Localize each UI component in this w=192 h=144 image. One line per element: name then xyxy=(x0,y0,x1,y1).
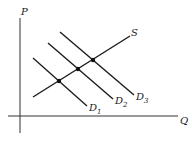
x-axis-label: Q xyxy=(180,115,188,126)
y-axis-label: P xyxy=(20,6,28,17)
equilibrium-point-3 xyxy=(91,58,95,62)
supply-demand-diagram: P Q S D1 D2 D3 xyxy=(0,0,192,144)
equilibrium-point-1 xyxy=(57,79,61,83)
demand-label-3: D3 xyxy=(135,91,149,105)
demand-curve-2 xyxy=(48,43,113,99)
supply-label: S xyxy=(131,27,138,38)
demand-label-1: D1 xyxy=(88,102,102,116)
equilibrium-point-2 xyxy=(76,67,80,71)
supply-curve xyxy=(33,36,130,97)
demand-label-2: D2 xyxy=(114,95,128,109)
